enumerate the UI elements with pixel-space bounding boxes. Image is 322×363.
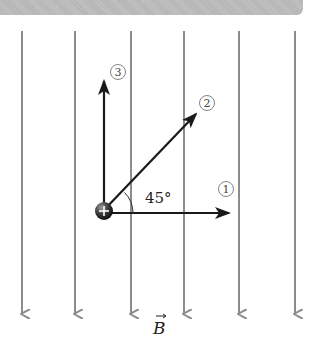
label-3: 3 xyxy=(111,65,126,80)
label-3-text: 3 xyxy=(115,66,122,79)
label-2: 2 xyxy=(200,96,215,111)
magnetic-field-diagram: 3 2 1 45° B xyxy=(0,0,322,363)
label-1: 1 xyxy=(219,182,234,197)
b-field-label: B xyxy=(152,314,166,338)
label-1-text: 1 xyxy=(223,183,230,196)
diagram-svg: 3 2 1 45° B xyxy=(0,0,322,363)
b-field-label-text: B xyxy=(152,318,166,338)
angle-label: 45° xyxy=(145,189,172,207)
field-lines xyxy=(22,31,295,314)
label-2-text: 2 xyxy=(204,97,211,110)
positive-charge xyxy=(95,202,113,220)
